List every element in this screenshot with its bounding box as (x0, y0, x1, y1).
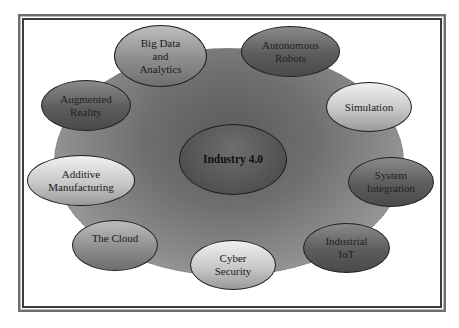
node-label: Augmented Reality (60, 93, 111, 119)
node-industrial-iot: Industrial IoT (303, 223, 390, 273)
node-label: Cyber Security (215, 252, 252, 278)
node-autonomous-robots: Autonomous Robots (241, 26, 340, 77)
node-label: Industry 4.0 (203, 153, 263, 166)
node-simulation: Simulation (326, 82, 412, 132)
node-label: Industrial IoT (325, 235, 367, 261)
node-label: Autonomous Robots (262, 39, 319, 65)
node-label: Simulation (345, 101, 393, 114)
node-cyber-security: Cyber Security (190, 240, 276, 290)
node-augmented-reality: Augmented Reality (41, 80, 131, 131)
node-the-cloud: The Cloud (72, 220, 158, 271)
node-label: The Cloud (92, 232, 139, 245)
node-additive-manufacturing: Additive Manufacturing (27, 155, 135, 206)
node-label: System Integration (367, 169, 415, 195)
node-system-integration: System Integration (348, 157, 434, 207)
node-label: Additive Manufacturing (48, 168, 113, 194)
node-industry-4-0: Industry 4.0 (179, 124, 287, 195)
node-big-data-analytics: Big Data and Analytics (114, 25, 207, 87)
node-label: Big Data and Analytics (139, 37, 181, 76)
